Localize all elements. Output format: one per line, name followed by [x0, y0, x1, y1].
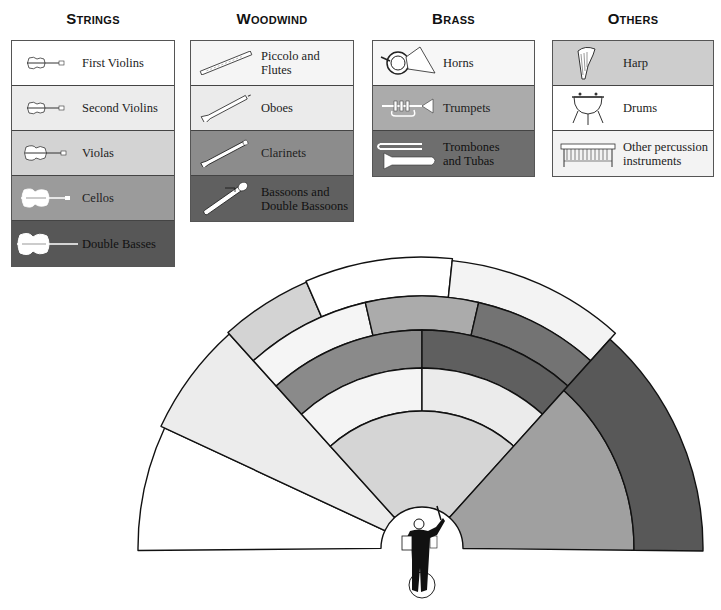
orchestra-seating-diagram: [0, 0, 721, 610]
seating-sectors: [138, 257, 703, 551]
conductor-figure: [402, 506, 445, 598]
